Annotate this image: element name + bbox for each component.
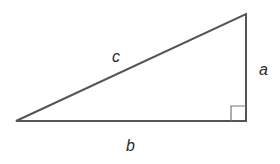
horizontal-leg-label: b — [126, 137, 135, 154]
triangle-diagram: c a b — [0, 0, 280, 164]
right-angle-marker — [231, 106, 246, 121]
vertical-leg-label: a — [259, 61, 268, 78]
hypotenuse-label: c — [112, 48, 120, 65]
right-triangle — [16, 14, 246, 121]
